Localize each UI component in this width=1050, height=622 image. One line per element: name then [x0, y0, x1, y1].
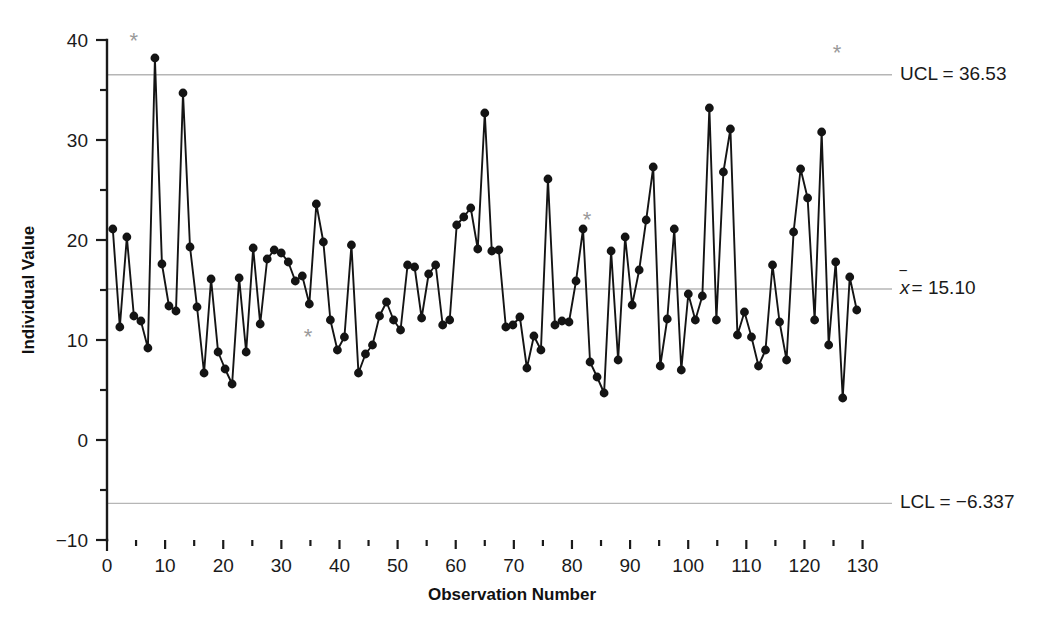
x-tick-label: 60	[445, 555, 466, 576]
data-point	[108, 225, 117, 234]
data-point	[796, 165, 805, 174]
x-axis-ticks	[107, 540, 863, 551]
data-point	[635, 266, 644, 275]
data-point	[754, 362, 763, 371]
data-point	[354, 369, 363, 378]
data-point	[831, 258, 840, 267]
data-point	[256, 320, 265, 329]
data-point	[298, 272, 307, 281]
data-point	[235, 274, 244, 283]
data-point	[740, 308, 749, 317]
data-point	[249, 244, 258, 253]
data-point	[221, 365, 230, 374]
data-point	[530, 332, 539, 341]
x-tick-label: 20	[213, 555, 234, 576]
control-limit-label-ucl: UCL = 36.53	[900, 63, 1007, 84]
data-point	[228, 380, 237, 389]
data-point	[698, 292, 707, 301]
data-point	[761, 346, 770, 355]
control-limit-labels: UCL = 36.53x‾ = 15.10LCL = −6.337	[899, 63, 1014, 513]
data-point	[522, 364, 531, 373]
out-of-control-markers: ****	[129, 28, 841, 349]
y-axis-ticks	[96, 40, 107, 540]
chart-axes: −10010203040 010203040506070809010011012…	[56, 30, 879, 576]
data-point	[424, 270, 433, 279]
data-point	[312, 200, 321, 209]
out-of-control-star-icon: *	[129, 28, 138, 53]
data-point	[621, 233, 630, 242]
center-line-value: = 15.10	[906, 277, 975, 298]
data-point	[691, 316, 700, 325]
data-point	[733, 331, 742, 340]
y-axis-tick-labels: −10010203040	[56, 30, 88, 551]
data-point	[775, 318, 784, 327]
data-point	[186, 243, 195, 252]
data-point	[389, 316, 398, 325]
data-point	[263, 255, 272, 264]
data-point	[782, 356, 791, 365]
data-point	[333, 346, 342, 355]
data-point	[810, 316, 819, 325]
data-point	[284, 258, 293, 267]
x-tick-label: 80	[561, 555, 582, 576]
data-point	[361, 350, 370, 359]
x-tick-label: 10	[155, 555, 176, 576]
data-point	[649, 163, 658, 172]
data-point	[151, 54, 160, 63]
data-point	[593, 373, 602, 382]
data-point	[200, 369, 209, 378]
data-point	[179, 89, 188, 98]
data-point	[115, 323, 124, 332]
data-point	[158, 260, 167, 269]
x-tick-label: 100	[672, 555, 704, 576]
data-point	[193, 303, 202, 312]
data-point	[382, 298, 391, 307]
x-axis-title: Observation Number	[428, 585, 597, 604]
data-point	[326, 316, 335, 325]
data-point	[466, 204, 475, 213]
chart-canvas: −10010203040 010203040506070809010011012…	[0, 0, 1050, 622]
data-point	[789, 228, 798, 237]
data-point	[642, 216, 651, 225]
data-point	[852, 306, 861, 315]
y-tick-label: 10	[67, 330, 88, 351]
data-point	[663, 315, 672, 324]
y-tick-label: 20	[67, 230, 88, 251]
control-chart: −10010203040 010203040506070809010011012…	[0, 0, 1050, 622]
data-point	[417, 314, 426, 323]
series-markers	[108, 54, 861, 403]
data-point	[375, 312, 384, 321]
data-series	[108, 54, 861, 403]
out-of-control-star-icon: *	[583, 207, 592, 232]
out-of-control-star-icon: *	[304, 324, 313, 349]
data-point	[614, 356, 623, 365]
data-point	[677, 366, 686, 375]
x-tick-label: 40	[329, 555, 350, 576]
data-point	[705, 104, 714, 113]
data-point	[600, 389, 609, 398]
x-tick-label: 90	[620, 555, 641, 576]
y-tick-label: 0	[77, 430, 88, 451]
data-point	[544, 175, 553, 184]
data-point	[838, 394, 847, 403]
data-point	[515, 313, 524, 322]
data-point	[340, 333, 349, 342]
data-point	[473, 245, 482, 254]
x-tick-label: 120	[789, 555, 821, 576]
data-point	[719, 168, 728, 177]
data-point	[136, 317, 145, 326]
data-point	[684, 290, 693, 299]
data-point	[494, 246, 503, 255]
x-tick-label: 0	[102, 555, 113, 576]
data-point	[214, 348, 223, 357]
data-point	[572, 277, 581, 286]
control-limit-label-lcl: LCL = −6.337	[900, 491, 1014, 512]
data-point	[207, 275, 216, 284]
data-point	[445, 316, 454, 325]
data-point	[803, 194, 812, 203]
data-point	[242, 348, 251, 357]
x-tick-label: 50	[387, 555, 408, 576]
data-point	[726, 125, 735, 134]
data-point	[845, 273, 854, 282]
data-point	[768, 261, 777, 270]
